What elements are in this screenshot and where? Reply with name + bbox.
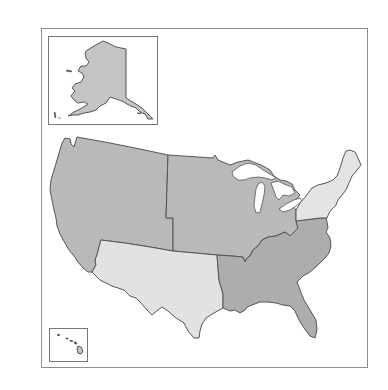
us-regions-map: [0, 0, 388, 390]
hawaii-inset: [50, 329, 88, 362]
alaska-inset: [49, 37, 158, 125]
hawaii-inset-frame: [50, 329, 88, 362]
region-southwest[interactable]: [92, 240, 223, 338]
region-northeast[interactable]: [296, 150, 361, 221]
hawaii-island[interactable]: [66, 338, 68, 339]
